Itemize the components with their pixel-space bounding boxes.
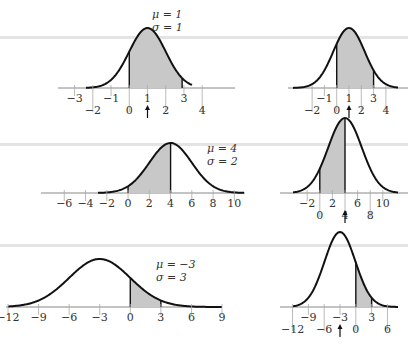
panel-row1-left: −3−113−2024 [58, 28, 235, 118]
tick-label: 3 [180, 92, 187, 105]
shaded-area [128, 143, 171, 193]
tick-label: 2 [146, 197, 153, 210]
tick-label: 3 [157, 311, 164, 324]
param-sigma-row1: σ = 1 [152, 21, 183, 34]
tick-label: 6 [384, 323, 391, 336]
tick-label: −9 [30, 311, 46, 324]
tick-label: 0 [316, 209, 323, 222]
tick-label: −3 [332, 311, 348, 324]
tick-label: −12 [281, 323, 304, 336]
tick-label: −3 [66, 92, 82, 105]
tick-label: 4 [199, 104, 206, 117]
tick-label: −4 [77, 197, 93, 210]
tick-label: 0 [352, 323, 359, 336]
tick-label: 9 [219, 311, 226, 324]
panel-row3-right: −9−33−12−606 [280, 232, 398, 337]
tick-label: −2 [304, 104, 320, 117]
tick-label: 6 [188, 197, 195, 210]
tick-label: 0 [127, 311, 134, 324]
tick-label: 0 [333, 104, 340, 117]
tick-label: 6 [188, 311, 195, 324]
tick-label: 1 [346, 92, 353, 105]
tick-label: 3 [368, 311, 375, 324]
shaded-area [320, 118, 345, 193]
tick-label: 8 [367, 209, 374, 222]
tick-label: −2 [85, 104, 101, 117]
tick-label: 3 [370, 92, 377, 105]
tick-label: 8 [210, 197, 217, 210]
mean-arrow-icon [347, 105, 352, 110]
panel-row1-right: −113−2024 [288, 28, 408, 118]
param-mu-row3: μ = −3 [156, 258, 196, 271]
tick-label: −2 [99, 197, 115, 210]
param-sigma-row3: σ = 3 [156, 271, 187, 284]
tick-label: 4 [382, 104, 389, 117]
mean-arrow-icon [338, 324, 343, 329]
tick-label: −6 [56, 197, 72, 210]
tick-label: 0 [125, 197, 132, 210]
tick-label: 4 [167, 197, 174, 210]
param-mu-row1: μ = 1 [152, 8, 182, 21]
tick-label: −12 [0, 311, 20, 324]
normal-distributions-figure: −3−113−2024 −113−2024 −6−4−20246810 −226… [0, 0, 408, 346]
tick-label: −2 [299, 197, 315, 210]
tick-label: −1 [103, 92, 119, 105]
density-curve [293, 232, 398, 307]
tick-label: −6 [316, 323, 332, 336]
mean-arrow-icon [145, 105, 150, 110]
param-sigma-row2: σ = 2 [207, 155, 238, 168]
tick-label: 2 [329, 197, 336, 210]
tick-label: −6 [61, 311, 77, 324]
param-mu-row2: μ = 4 [207, 142, 237, 155]
tick-label: 1 [144, 92, 151, 105]
panel-row2-right: −22610048 [280, 118, 408, 223]
tick-label: 6 [354, 197, 361, 210]
tick-label: −3 [92, 311, 108, 324]
tick-label: 0 [126, 104, 133, 117]
tick-label: 10 [376, 197, 390, 210]
tick-label: 2 [358, 104, 365, 117]
tick-label: 2 [162, 104, 169, 117]
tick-label: 10 [227, 197, 241, 210]
